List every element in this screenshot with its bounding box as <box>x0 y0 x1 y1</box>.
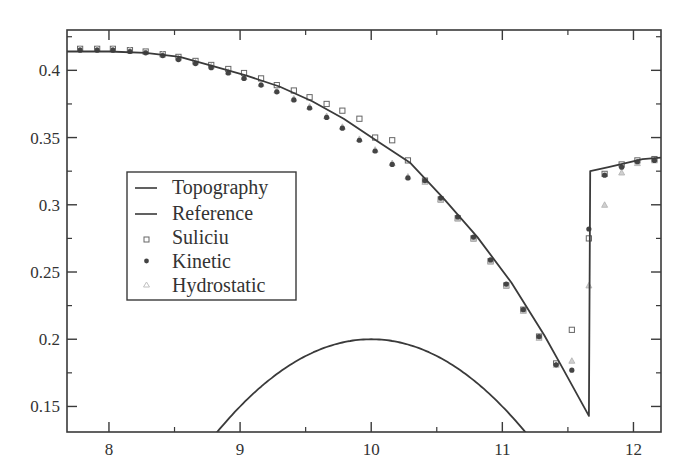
legend-kinetic-dot-icon <box>144 259 149 264</box>
x-tick-label: 9 <box>236 440 245 459</box>
kinetic-marker <box>324 115 329 120</box>
suliciu-marker <box>390 138 395 143</box>
y-tick-label: 0.3 <box>39 196 60 215</box>
x-tick-label: 10 <box>363 440 380 459</box>
chart: 891011120.150.20.250.30.350.4 Topography… <box>0 0 692 472</box>
axis-tick-labels: 891011120.150.20.250.30.350.4 <box>30 61 642 459</box>
y-tick-label: 0.25 <box>30 263 60 282</box>
kinetic-marker <box>390 162 395 167</box>
y-tick-label: 0.4 <box>39 61 61 80</box>
legend-suliciu-label: Suliciu <box>172 226 229 248</box>
hydrostatic-marker <box>569 358 575 364</box>
suliciu-marker <box>324 101 329 106</box>
kinetic-marker <box>536 334 541 339</box>
legend-hydrostatic-label: Hydrostatic <box>172 274 265 297</box>
legend-reference-label: Reference <box>172 202 253 224</box>
kinetic-marker <box>241 76 246 81</box>
legend-topography-label: Topography <box>172 176 268 199</box>
y-tick-label: 0.15 <box>30 397 60 416</box>
legend-kinetic-label: Kinetic <box>172 250 231 272</box>
kinetic-marker <box>340 126 345 131</box>
kinetic-marker <box>357 138 362 143</box>
y-tick-label: 0.35 <box>30 129 60 148</box>
hydrostatic-marker <box>602 202 608 208</box>
suliciu-marker <box>340 108 345 113</box>
kinetic-marker <box>307 105 312 110</box>
kinetic-marker <box>521 307 526 312</box>
kinetic-marker <box>258 83 263 88</box>
kinetic-marker <box>504 282 509 287</box>
kinetic-marker <box>291 97 296 102</box>
kinetic-marker <box>602 173 607 178</box>
kinetic-marker <box>553 362 558 367</box>
suliciu-marker <box>357 116 362 121</box>
series-topography-line <box>214 339 529 436</box>
y-tick-label: 0.2 <box>39 330 60 349</box>
kinetic-marker <box>569 368 574 373</box>
hydrostatic-marker <box>619 170 625 176</box>
x-tick-label: 11 <box>494 440 510 459</box>
x-tick-label: 8 <box>105 440 114 459</box>
legend: Topography Reference Suliciu Kinetic Hyd… <box>127 172 296 300</box>
x-tick-label: 12 <box>625 440 642 459</box>
kinetic-marker <box>274 89 279 94</box>
kinetic-marker <box>405 175 410 180</box>
suliciu-marker <box>569 327 574 332</box>
kinetic-marker <box>373 148 378 153</box>
